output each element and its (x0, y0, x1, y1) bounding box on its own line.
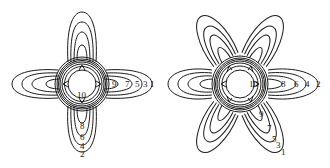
right-core-rings (212, 56, 268, 112)
right-left-lobe (168, 69, 214, 99)
left-left-lobe (12, 70, 60, 99)
right-right-lobe (266, 69, 318, 99)
left-top-lobe (68, 12, 97, 62)
right-label-8: 8 (281, 79, 286, 89)
left-label-9: 9 (112, 79, 117, 89)
left-label-8: 8 (80, 121, 85, 131)
right-label-7: 7 (267, 123, 272, 133)
diagram-canvas: 10 9 7 5 3 1 8 6 4 2 (0, 0, 330, 168)
left-label-7: 7 (125, 79, 130, 89)
left-contour-plot: 10 9 7 5 3 1 8 6 4 2 (12, 12, 155, 159)
right-contour-plot: 10 8 6 4 2 9 7 5 3 1 (168, 9, 321, 159)
left-label-10: 10 (77, 90, 87, 100)
right-label-2: 2 (316, 79, 321, 89)
left-label-3: 3 (143, 79, 148, 89)
right-label-6: 6 (294, 79, 299, 89)
left-label-5: 5 (135, 79, 140, 89)
right-label-4: 4 (305, 79, 310, 89)
right-label-1: 1 (281, 147, 286, 157)
right-label-9: 9 (259, 109, 264, 119)
right-label-10: 10 (249, 79, 259, 89)
left-label-1: 1 (150, 79, 155, 89)
left-core-rings (55, 57, 109, 111)
left-label-2: 2 (80, 149, 85, 159)
